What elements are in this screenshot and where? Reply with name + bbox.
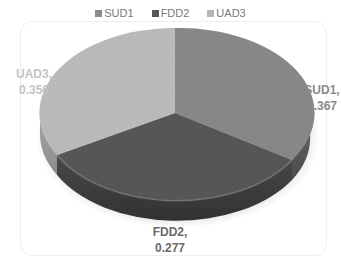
data-label-sud1: SUD1, 0.367 [300, 82, 341, 114]
data-label-uad3: UAD3, 0.356 [14, 66, 54, 98]
data-label-fdd2: FDD2, 0.277 [140, 224, 200, 256]
label-value: 0.367 [300, 98, 341, 114]
label-name: SUD1, [300, 82, 341, 98]
label-value: 0.356 [14, 82, 54, 98]
label-value: 0.277 [140, 240, 200, 256]
label-name: UAD3, [14, 66, 54, 82]
label-name: FDD2, [140, 224, 200, 240]
